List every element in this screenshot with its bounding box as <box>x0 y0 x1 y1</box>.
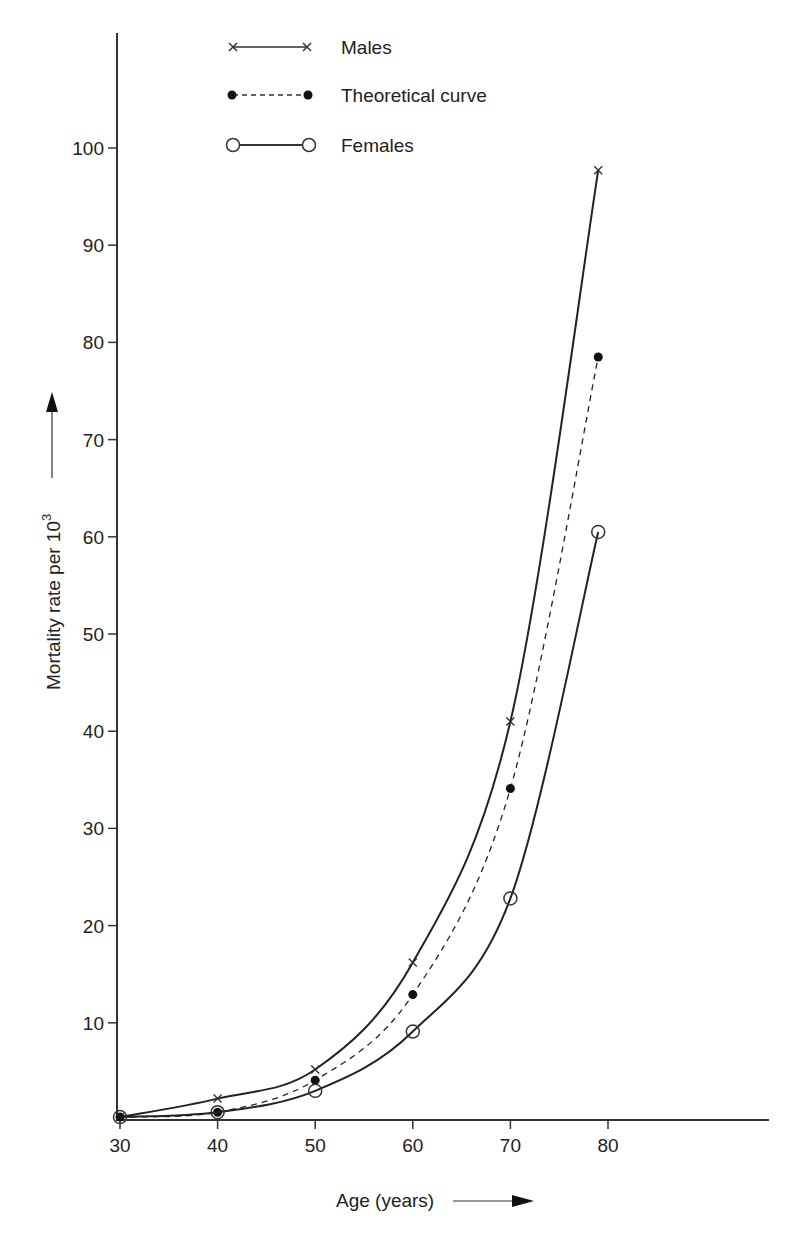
x-axis-arrow <box>453 1195 534 1207</box>
arrow-up-icon <box>46 392 58 412</box>
series-males <box>116 166 602 1121</box>
y-axis-title-text: Mortality rate per 10 <box>43 521 64 690</box>
x-tick-label: 40 <box>207 1135 228 1156</box>
filled-circle-marker-icon <box>594 352 603 361</box>
filled-circle-marker-icon <box>304 91 313 100</box>
series-theoretical-curve <box>116 352 603 1121</box>
mortality-chart: 102030405060708090100 304050607080 Males… <box>0 0 797 1234</box>
x-tick-label: 30 <box>109 1135 130 1156</box>
filled-circle-marker-icon <box>506 784 515 793</box>
x-tick-label: 70 <box>500 1135 521 1156</box>
y-axis-arrow <box>46 392 58 478</box>
x-tick-label: 60 <box>402 1135 423 1156</box>
y-tick-label: 100 <box>72 138 104 159</box>
x-tick-label: 50 <box>305 1135 326 1156</box>
y-tick-label: 70 <box>83 430 104 451</box>
filled-circle-marker-icon <box>408 990 417 999</box>
arrow-right-icon <box>512 1195 534 1207</box>
filled-circle-marker-icon <box>228 91 237 100</box>
x-marker-icon <box>311 1065 319 1073</box>
y-tick-label: 90 <box>83 235 104 256</box>
legend-item-males: Males <box>229 37 392 58</box>
legend-label-males: Males <box>341 37 392 58</box>
y-tick-label: 40 <box>83 721 104 742</box>
x-marker-icon <box>409 959 417 967</box>
y-tick-label: 20 <box>83 916 104 937</box>
legend-label-theoretical: Theoretical curve <box>341 85 487 106</box>
y-axis-title-exponent: 3 <box>39 514 54 521</box>
open-circle-marker-icon <box>592 525 605 538</box>
x-tick-label: 80 <box>597 1135 618 1156</box>
legend-item-theoretical: Theoretical curve <box>228 85 487 106</box>
x-ticks: 304050607080 <box>109 1120 618 1156</box>
open-circle-marker-icon <box>303 139 316 152</box>
y-tick-label: 60 <box>83 527 104 548</box>
legend-item-females: Females <box>227 135 414 156</box>
y-tick-label: 30 <box>83 818 104 839</box>
y-axis-title: Mortality rate per 103 <box>39 514 64 690</box>
open-circle-marker-icon <box>227 139 240 152</box>
x-axis-title: Age (years) <box>336 1190 434 1211</box>
series-line <box>120 170 598 1117</box>
series-line <box>120 532 598 1117</box>
svg-text:Mortality rate per 103: Mortality rate per 103 <box>39 514 64 690</box>
y-tick-label: 50 <box>83 624 104 645</box>
legend-label-females: Females <box>341 135 414 156</box>
series-line <box>120 357 598 1117</box>
y-ticks: 102030405060708090100 <box>72 138 117 1034</box>
filled-circle-marker-icon <box>311 1076 320 1085</box>
legend: Males Theoretical curve Females <box>227 37 487 156</box>
series-layer <box>114 166 605 1123</box>
y-tick-label: 80 <box>83 332 104 353</box>
y-tick-label: 10 <box>83 1013 104 1034</box>
